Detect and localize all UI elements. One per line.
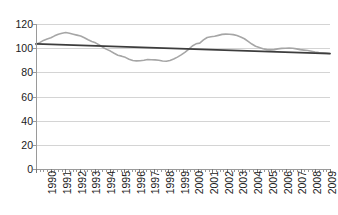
x-tick-label-1993: 1993 [91, 171, 102, 194]
x-tick-label-1998: 1998 [165, 171, 176, 194]
y-tick-label-20: 20 [3, 140, 33, 151]
series-svg [36, 24, 330, 169]
x-tick-label-2006: 2006 [283, 171, 294, 194]
y-tick-label-120: 120 [3, 19, 33, 30]
x-tick-label-2007: 2007 [297, 171, 308, 194]
x-tick-label-1992: 1992 [77, 171, 88, 194]
x-tick-label-1990: 1990 [47, 171, 58, 194]
x-tick-label-2002: 2002 [224, 171, 235, 194]
y-tick-label-80: 80 [3, 67, 33, 78]
x-tick-label-1995: 1995 [121, 171, 132, 194]
x-tick-label-1997: 1997 [150, 171, 161, 194]
x-tick-label-2003: 2003 [238, 171, 249, 194]
x-tick-label-1994: 1994 [106, 171, 117, 194]
y-tick-label-40: 40 [3, 116, 33, 127]
x-tick-label-1991: 1991 [62, 171, 73, 194]
x-tick-label-2009: 2009 [327, 171, 338, 194]
y-tick-label-0: 0 [3, 164, 33, 175]
x-tick-label-2000: 2000 [194, 171, 205, 194]
x-tick-label-1999: 1999 [180, 171, 191, 194]
x-tick-label-2008: 2008 [312, 171, 323, 194]
plot-area [36, 24, 330, 169]
series-line-index [36, 33, 330, 62]
y-axis-labels: 020406080100120 [0, 0, 33, 215]
x-tick-label-2001: 2001 [209, 171, 220, 194]
x-tick-label-1996: 1996 [136, 171, 147, 194]
y-tick-label-100: 100 [3, 43, 33, 54]
y-axis-line [36, 24, 37, 170]
x-tick-label-2004: 2004 [253, 171, 264, 194]
x-axis-labels: 1990199119921993199419951996199719981999… [36, 171, 330, 215]
y-tick-label-60: 60 [3, 92, 33, 103]
x-tick-label-2005: 2005 [268, 171, 279, 194]
